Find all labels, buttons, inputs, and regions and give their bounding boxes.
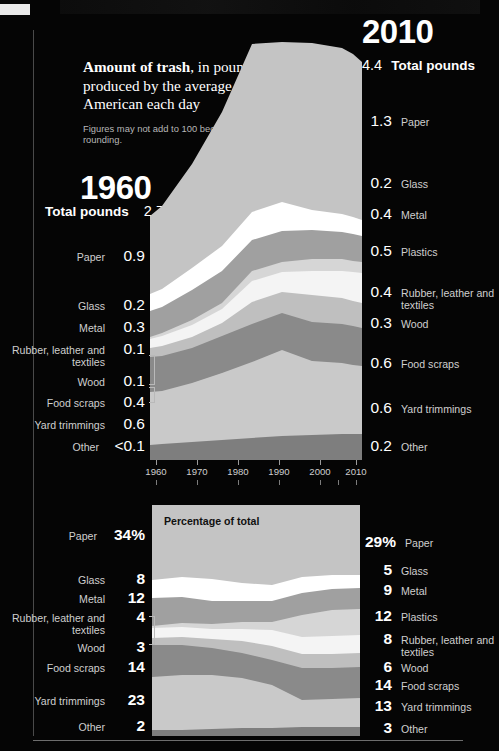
percentage-area-svg — [152, 505, 360, 736]
label-value: 3 — [362, 720, 392, 735]
pct-1960-paper: Paper 34% — [5, 527, 145, 542]
label-name: Metal — [401, 209, 427, 221]
axis-label-year: 1990 — [268, 466, 289, 477]
pct-1960-glass: Glass 8 — [5, 571, 145, 586]
label-value: 0.6 — [362, 400, 392, 415]
label-1960-other: Other <0.1 — [5, 438, 145, 453]
pct-2010-paper: 29% Paper — [362, 534, 433, 549]
label-name: Wood — [401, 318, 428, 330]
pct-2010-rubber: 8 Rubber, leather and textiles — [362, 631, 499, 658]
label-name: Paper — [77, 251, 105, 263]
axis-tick-lower — [156, 480, 157, 485]
axis-tick — [238, 460, 239, 465]
label-name: Other — [79, 721, 106, 733]
label-value: 23 — [105, 692, 145, 707]
year-heading-1960: 1960 — [80, 169, 151, 207]
label-value: 1.3 — [362, 113, 392, 128]
label-name: Food scraps — [47, 662, 105, 674]
label-name: Rubber, leather and textiles — [401, 634, 499, 658]
corner-marker — [0, 4, 30, 15]
label-name: Other — [401, 723, 428, 735]
total-pounds-2010-label: Total pounds — [391, 58, 475, 73]
label-2010-glass: 0.2 Glass — [362, 175, 428, 190]
label-value: 0.3 — [362, 315, 392, 330]
label-name: Glass — [401, 565, 428, 577]
pounds-area-svg — [150, 40, 362, 460]
percentage-stacked-area-chart: Percentage of total — [152, 505, 360, 736]
label-value: 0.6 — [362, 355, 392, 370]
bracket-food-scraps — [149, 387, 155, 403]
label-name: Glass — [78, 574, 105, 586]
total-pounds-1960: Total pounds2.7 — [14, 203, 164, 219]
label-value: 0.4 — [105, 394, 145, 409]
label-value: 0.2 — [362, 438, 392, 453]
label-2010-paper: 1.3 Paper — [362, 113, 429, 128]
label-value: 0.3 — [105, 319, 145, 334]
total-pounds-2010-value: 4.4 — [362, 57, 382, 73]
year-axis: 1960 1970 1980 1990 2000 2010 — [150, 460, 362, 490]
label-value: 0.4 — [362, 206, 392, 221]
label-1960-food-scraps: Food scraps 0.4 — [5, 394, 145, 409]
label-value: 34% — [97, 527, 145, 542]
label-value: 14 — [105, 659, 145, 674]
label-name: Wood — [78, 376, 105, 388]
label-name: Other — [73, 441, 100, 453]
percentage-chart-caption: Percentage of total — [164, 515, 259, 527]
label-value: 6 — [362, 659, 392, 674]
axis-tick-lower — [197, 480, 198, 485]
label-value: 0.6 — [105, 416, 145, 431]
pct-2010-plastics: 12 Plastics — [362, 608, 438, 623]
bracket-rubber-wood — [149, 355, 155, 385]
axis-tick-lower — [338, 480, 339, 485]
pct-2010-food-scraps: 14 Food scraps — [362, 677, 459, 692]
pct-1960-rubber: Rubber, leather and textiles 4 — [5, 609, 145, 636]
label-name: Food scraps — [401, 358, 459, 370]
label-name: Yard trimmings — [401, 701, 471, 713]
label-name: Plastics — [401, 246, 438, 258]
pounds-stacked-area-chart — [150, 40, 362, 460]
label-2010-metal: 0.4 Metal — [362, 206, 427, 221]
label-value: 8 — [362, 631, 392, 646]
pct-1960-yard-trimmings: Yard trimmings 23 — [5, 692, 145, 707]
axis-tick-lower — [238, 480, 239, 485]
axis-tick — [320, 460, 321, 465]
label-name: Rubber, leather and textiles — [7, 344, 105, 368]
label-1960-yard-trimmings: Yard trimmings 0.6 — [5, 416, 145, 431]
axis-label-year: 1960 — [145, 466, 166, 477]
label-name: Paper — [401, 116, 429, 128]
pct-1960-wood: Wood 3 — [5, 639, 145, 654]
label-1960-paper: Paper 0.9 — [5, 248, 145, 263]
label-2010-food-scraps: 0.6 Food scraps — [362, 355, 459, 370]
label-value: 14 — [362, 677, 392, 692]
label-1960-glass: Glass 0.2 — [5, 297, 145, 312]
page-top-edge — [60, 0, 480, 14]
label-value: 13 — [362, 698, 392, 713]
label-value: 2 — [105, 718, 145, 733]
infographic-canvas: Amount of trash, in pounds, produced by … — [0, 0, 499, 751]
axis-tick — [279, 460, 280, 465]
pct-2010-metal: 9 Metal — [362, 582, 427, 597]
axis-label-year: 1970 — [186, 466, 207, 477]
axis-tick — [197, 460, 198, 465]
axis-tick-lower — [320, 480, 321, 485]
axis-tick-lower — [356, 480, 357, 485]
pct-2010-wood: 6 Wood — [362, 659, 428, 674]
label-value: 12 — [105, 590, 145, 605]
label-name: Yard trimmings — [35, 419, 105, 431]
pct-2010-other: 3 Other — [362, 720, 428, 735]
label-name: Metal — [79, 593, 105, 605]
axis-label-year: 2010 — [345, 466, 366, 477]
label-value: 9 — [362, 582, 392, 597]
label-value: 8 — [105, 571, 145, 586]
pct-1960-food-scraps: Food scraps 14 — [5, 659, 145, 674]
label-value: 0.5 — [362, 243, 392, 258]
label-name: Glass — [401, 178, 428, 190]
pct-1960-metal: Metal 12 — [5, 590, 145, 605]
axis-tick — [156, 460, 157, 465]
label-name: Rubber, leather and textiles — [7, 612, 105, 636]
total-pounds-2010: 4.4Total pounds — [362, 57, 475, 73]
label-1960-metal: Metal 0.3 — [5, 319, 145, 334]
label-value: <0.1 — [99, 438, 145, 453]
label-name: Other — [401, 441, 428, 453]
label-2010-other: 0.2 Other — [362, 438, 428, 453]
